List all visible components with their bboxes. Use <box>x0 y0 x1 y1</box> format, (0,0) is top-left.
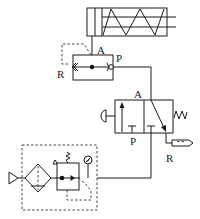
dcv-port-r-label: R <box>166 152 174 164</box>
frl-unit <box>9 145 97 210</box>
regulator-junction-dot <box>60 176 65 181</box>
qev-junction-dot <box>90 65 94 69</box>
dcv-port-p-label: P <box>130 135 136 147</box>
qev-port-r-label: R <box>57 68 65 80</box>
qev-port-a-label: A <box>97 44 105 56</box>
dcv-spring-icon <box>174 111 187 119</box>
cylinder <box>87 8 176 36</box>
regulator-spring-icon <box>66 152 70 163</box>
dcv-port-a-label: A <box>134 88 142 100</box>
line-supply-to-dcv <box>97 133 151 178</box>
cylinder-body <box>87 8 167 36</box>
regulator-vent-icon <box>53 160 57 164</box>
qev-port-p-label: P <box>116 52 122 64</box>
line-qev-to-dcv <box>113 67 151 100</box>
push-button-icon <box>101 110 106 122</box>
directional-valve: A P R <box>101 88 187 164</box>
silencer-icon <box>172 140 193 146</box>
pneumatic-circuit-diagram: A P R A P R <box>0 0 200 219</box>
quick-exhaust-valve: A P R <box>57 44 122 80</box>
air-inlet-icon <box>9 172 18 184</box>
silencer <box>172 140 193 146</box>
line-dcv-to-silencer <box>166 133 172 143</box>
